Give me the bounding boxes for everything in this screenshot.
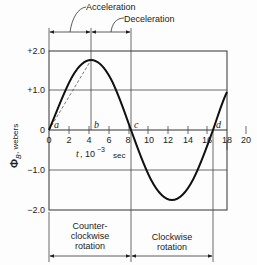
svg-text:, 10: , 10 xyxy=(80,149,95,159)
cw-label-2: rotation xyxy=(157,242,187,252)
point-c-label: c xyxy=(134,119,139,130)
svg-text:4: 4 xyxy=(86,135,91,145)
svg-text:2: 2 xyxy=(66,135,71,145)
svg-text:−3: −3 xyxy=(97,146,105,153)
deceleration-label: Deceleration xyxy=(124,14,175,24)
svg-text:0: 0 xyxy=(46,135,51,145)
ytick-zero: 0 xyxy=(40,125,45,135)
ccw-label-3: rotation xyxy=(75,241,105,251)
ccw-label-2: clockwise xyxy=(71,231,110,241)
acceleration-label: Acceleration xyxy=(86,2,136,12)
svg-text:14: 14 xyxy=(183,135,193,145)
ytick-minus2: −2.0 xyxy=(27,205,45,215)
ytick-plus2: +2.0 xyxy=(27,46,45,56)
svg-text:8: 8 xyxy=(125,135,130,145)
x-axis-label: t , 10 −3 sec xyxy=(76,146,125,160)
svg-text:18: 18 xyxy=(222,135,232,145)
svg-text:12: 12 xyxy=(163,135,173,145)
x-tick-labels: 0 2 4 6 8 10 12 14 16 18 20 xyxy=(46,135,251,145)
svg-text:10: 10 xyxy=(144,135,154,145)
ccw-label-1: Counter- xyxy=(72,221,107,231)
svg-text:t: t xyxy=(76,148,79,159)
flux-diagram: Acceleration Deceleration Counter- clock… xyxy=(0,0,257,265)
svg-text:Φ: Φ xyxy=(8,159,20,168)
point-d-label: d xyxy=(216,119,222,130)
point-a-label: a xyxy=(54,119,59,130)
svg-text:6: 6 xyxy=(106,135,111,145)
acceleration-leader xyxy=(70,7,86,32)
ytick-plus1: +1.0 xyxy=(27,85,45,95)
y-axis-label: Φ B , webers xyxy=(8,124,22,168)
cw-label-1: Clockwise xyxy=(152,232,193,242)
svg-text:, webers: , webers xyxy=(11,124,20,154)
svg-text:16: 16 xyxy=(202,135,212,145)
ytick-minus1: −1.0 xyxy=(27,165,45,175)
svg-text:20: 20 xyxy=(241,135,251,145)
svg-text:sec: sec xyxy=(113,151,125,160)
deceleration-leader xyxy=(111,18,124,32)
point-b-label: b xyxy=(94,119,99,130)
